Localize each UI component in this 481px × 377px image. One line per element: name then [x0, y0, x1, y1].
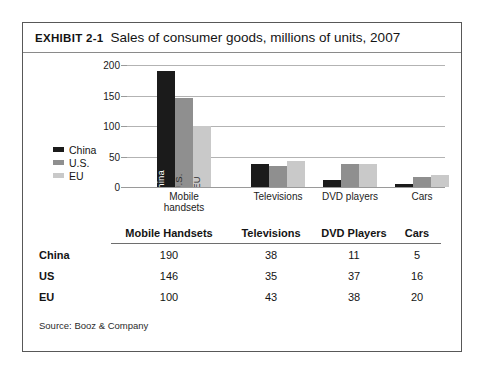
x-axis-baseline — [127, 187, 445, 188]
bar-us-mobile-handsets[interactable]: U.S. — [175, 98, 193, 187]
bar-eu-dvd-players[interactable] — [359, 164, 377, 187]
bar-inner-label: EU — [193, 176, 202, 187]
table-cell: 100 — [111, 286, 227, 307]
exhibit-title-text: Sales of consumer goods, millions of uni… — [110, 30, 400, 45]
exhibit-title-bar: EXHIBIT 2-1 Sales of consumer goods, mil… — [23, 23, 461, 53]
table-cell: 11 — [315, 244, 393, 266]
table-cell: 20 — [393, 286, 441, 307]
bar-china-dvd-players[interactable] — [323, 180, 341, 187]
chart-legend: ChinaU.S.EU — [53, 143, 96, 182]
y-axis-tick-label: 0 — [114, 182, 120, 193]
y-axis-tick-mark — [121, 96, 127, 97]
bar-china-cars[interactable] — [395, 184, 413, 187]
legend-swatch-icon — [53, 147, 64, 152]
legend-label: U.S. — [69, 157, 89, 169]
bar-inner-label: China — [157, 170, 166, 187]
table-header-row: Mobile Handsets Televisions DVD Players … — [37, 225, 441, 244]
bar-us-cars[interactable] — [413, 177, 431, 187]
bar-eu-mobile-handsets[interactable]: EU — [193, 126, 211, 187]
table-cell: 5 — [393, 244, 441, 266]
y-axis-tick-mark — [121, 157, 127, 158]
y-axis-tick-mark — [121, 65, 127, 66]
table-cell: 43 — [227, 286, 315, 307]
table-header-cars: Cars — [393, 225, 441, 244]
chart-plot-area: 050100150200ChinaU.S.EUMobilehandsetsTel… — [127, 65, 445, 187]
table-body: China19038115US146353716EU100433820 — [37, 244, 441, 308]
table-cell: 38 — [315, 286, 393, 307]
y-axis-tick-label: 100 — [103, 121, 120, 132]
bar-group-dvd-players: DVD players — [323, 164, 377, 187]
data-table: Mobile Handsets Televisions DVD Players … — [37, 225, 441, 307]
bar-us-dvd-players[interactable] — [341, 164, 359, 187]
y-axis-tick-label: 200 — [103, 60, 120, 71]
legend-label: EU — [69, 170, 84, 182]
legend-item-us: U.S. — [53, 156, 96, 169]
bar-eu-cars[interactable] — [431, 175, 449, 187]
legend-item-china: China — [53, 143, 96, 156]
table-header-televisions: Televisions — [227, 225, 315, 244]
table-header-mobile-handsets: Mobile Handsets — [111, 225, 227, 244]
x-axis-category-label: Televisions — [254, 191, 303, 202]
bar-inner-label: U.S. — [175, 173, 184, 187]
table-row-label: EU — [37, 286, 111, 307]
bar-group-mobile-handsets: ChinaU.S.EUMobilehandsets — [157, 71, 211, 187]
table-row-label: China — [37, 244, 111, 266]
x-axis-category-label: Cars — [411, 191, 432, 202]
legend-swatch-icon — [53, 173, 64, 178]
table-row: EU100433820 — [37, 286, 441, 307]
table-cell: 35 — [227, 265, 315, 286]
legend-item-eu: EU — [53, 169, 96, 182]
exhibit-number-label: EXHIBIT 2-1 — [35, 32, 103, 44]
exhibit-panel: EXHIBIT 2-1 Sales of consumer goods, mil… — [22, 22, 462, 352]
bar-group-televisions: Televisions — [251, 161, 305, 187]
table-cell: 37 — [315, 265, 393, 286]
gridline — [127, 65, 445, 66]
table-row: US146353716 — [37, 265, 441, 286]
y-axis-tick-label: 150 — [103, 90, 120, 101]
table-row: China19038115 — [37, 244, 441, 266]
bar-china-mobile-handsets[interactable]: China — [157, 71, 175, 187]
source-note: Source: Booz & Company — [39, 320, 148, 331]
y-axis-tick-mark — [121, 187, 127, 188]
x-axis-category-label: DVD players — [322, 191, 378, 202]
table-cell: 16 — [393, 265, 441, 286]
table-cell: 38 — [227, 244, 315, 266]
bar-china-televisions[interactable] — [251, 164, 269, 187]
table-header-corner — [37, 225, 111, 244]
y-axis-tick-label: 50 — [109, 151, 120, 162]
bar-eu-televisions[interactable] — [287, 161, 305, 187]
legend-swatch-icon — [53, 160, 64, 165]
bar-group-cars: Cars — [395, 175, 449, 187]
data-table-container: Mobile Handsets Televisions DVD Players … — [23, 225, 461, 307]
bar-chart: ChinaU.S.EU 050100150200ChinaU.S.EUMobil… — [23, 53, 461, 225]
table-row-label: US — [37, 265, 111, 286]
bar-us-televisions[interactable] — [269, 166, 287, 187]
table-cell: 190 — [111, 244, 227, 266]
table-header-dvd-players: DVD Players — [315, 225, 393, 244]
y-axis-tick-mark — [121, 126, 127, 127]
x-axis-category-label: Mobilehandsets — [164, 191, 205, 213]
table-cell: 146 — [111, 265, 227, 286]
legend-label: China — [69, 144, 96, 156]
